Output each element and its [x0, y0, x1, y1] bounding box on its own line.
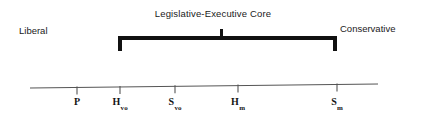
tick-label-subscript: m: [239, 104, 245, 112]
tick-label-base: S: [169, 96, 175, 107]
tick-label-subscript: m: [337, 104, 343, 112]
policy-axis: [0, 0, 426, 119]
tick-label-p: P: [74, 97, 80, 107]
tick-label-subscript: vo: [120, 104, 127, 112]
ideal-point-spatial-diagram: Legislative-Executive Core Liberal Conse…: [0, 0, 426, 119]
tick-label-subscript: vo: [174, 104, 181, 112]
tick-label-hm: Hm: [231, 97, 245, 110]
tick-label-hvo: Hvo: [112, 97, 127, 110]
tick-label-base: H: [112, 96, 120, 107]
tick-label-base: P: [74, 96, 80, 107]
tick-label-base: H: [231, 96, 239, 107]
tick-label-sm: Sm: [331, 97, 343, 110]
tick-label-svo: Svo: [169, 97, 182, 110]
tick-label-base: S: [331, 96, 337, 107]
axis-line: [30, 84, 378, 88]
